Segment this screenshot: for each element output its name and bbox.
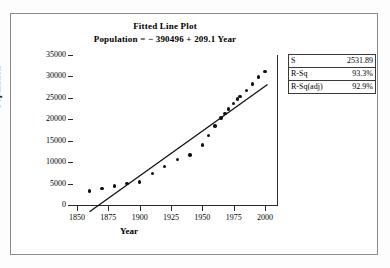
x-tick bbox=[202, 206, 203, 211]
plot-frame-right bbox=[277, 55, 278, 206]
statistics-row: S2531.89 bbox=[289, 55, 375, 68]
x-tick bbox=[140, 206, 141, 211]
x-tick bbox=[171, 206, 172, 211]
statistics-key: R-Sq bbox=[291, 68, 307, 80]
scatter-point bbox=[151, 172, 154, 175]
scatter-point bbox=[227, 107, 230, 110]
scatter-point bbox=[245, 89, 248, 92]
chart-subtitle-equation: Population = − 390496 + 209.1 Year bbox=[40, 33, 290, 45]
scatter-point bbox=[201, 143, 204, 146]
scatter-point bbox=[88, 189, 91, 192]
statistics-value: 92.9% bbox=[352, 81, 373, 93]
scatter-point bbox=[238, 95, 241, 98]
scatter-point bbox=[125, 182, 128, 185]
scatter-point bbox=[251, 82, 254, 85]
scatter-point bbox=[213, 124, 216, 127]
y-tick-label: 10000 bbox=[26, 158, 66, 166]
y-tick-label: 35000 bbox=[26, 51, 66, 59]
scatter-point bbox=[232, 102, 235, 105]
y-tick-label: 0 bbox=[26, 201, 66, 209]
x-tick-label: 2000 bbox=[245, 213, 285, 222]
screenshot-root: Fitted Line Plot Population = − 390496 +… bbox=[0, 0, 390, 268]
scatter-point bbox=[100, 187, 103, 190]
y-tick-label: 15000 bbox=[26, 137, 66, 145]
scatter-point bbox=[207, 134, 210, 137]
y-tick-label: 25000 bbox=[26, 94, 66, 102]
chart-title-block: Fitted Line Plot Population = − 390496 +… bbox=[40, 20, 290, 45]
y-tick-label: 30000 bbox=[26, 72, 66, 80]
scatter-point bbox=[138, 180, 141, 183]
y-tick-label: 5000 bbox=[26, 180, 66, 188]
scatter-point bbox=[176, 158, 179, 161]
x-axis-title: Year bbox=[120, 226, 138, 236]
y-tick bbox=[68, 205, 73, 206]
statistics-value: 93.3% bbox=[352, 68, 373, 80]
statistics-value: 2531.89 bbox=[347, 55, 373, 67]
scatter-point bbox=[219, 116, 222, 119]
x-tick bbox=[77, 206, 78, 211]
scatter-point bbox=[113, 184, 116, 187]
statistics-row: R-Sq(adj)92.9% bbox=[289, 81, 375, 93]
y-axis-title: Population bbox=[0, 66, 2, 108]
scatter-point bbox=[263, 70, 266, 73]
x-tick bbox=[108, 206, 109, 211]
statistics-key: R-Sq(adj) bbox=[291, 81, 323, 93]
x-axis-line bbox=[73, 205, 278, 206]
statistics-box: S2531.89R-Sq93.3%R-Sq(adj)92.9% bbox=[288, 54, 376, 94]
scatter-point bbox=[163, 165, 166, 168]
plot-area bbox=[73, 55, 277, 205]
scatter-point bbox=[188, 153, 191, 156]
x-tick bbox=[234, 206, 235, 211]
page-title: Fitted Line Plot bbox=[40, 20, 290, 32]
x-tick bbox=[265, 206, 266, 211]
statistics-key: S bbox=[291, 55, 295, 67]
scatter-point bbox=[223, 112, 226, 115]
statistics-row: R-Sq93.3% bbox=[289, 68, 375, 81]
scatter-point bbox=[257, 75, 260, 78]
y-tick-label: 20000 bbox=[26, 115, 66, 123]
